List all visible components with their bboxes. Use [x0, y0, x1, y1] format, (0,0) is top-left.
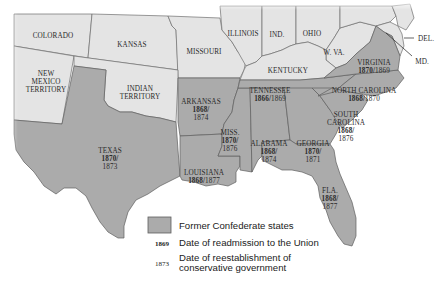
- years-south-carolina: 1868/: [338, 127, 356, 135]
- years-louisiana: 1868/1877: [188, 177, 220, 185]
- label-maryland: MD.: [415, 58, 429, 66]
- label-indian-territory-1: INDIAN: [127, 85, 154, 93]
- label-georgia: GEORGIA: [296, 140, 330, 148]
- label-indian-territory-2: TERRITORY: [120, 93, 161, 101]
- conservative-south-carolina: 1876: [339, 135, 354, 143]
- label-west-virginia: W. VA.: [323, 49, 345, 57]
- years-florida: 1868/: [322, 195, 340, 203]
- label-south-carolina-1: SOUTH: [334, 111, 358, 119]
- label-illinois: ILLINOIS: [227, 30, 258, 38]
- legend-conservative-label-2: conservative government: [179, 262, 287, 273]
- label-kansas: KANSAS: [117, 41, 146, 49]
- label-new-mexico-1: NEW: [38, 70, 55, 78]
- label-louisiana: LOUISIANA: [184, 169, 225, 177]
- years-virginia: 1870/1869: [358, 67, 390, 75]
- fade-top: [0, 0, 436, 10]
- label-south-carolina-2: CAROLINA: [327, 119, 366, 127]
- label-missouri: MISSOURI: [186, 48, 222, 56]
- conservative-arkansas: 1874: [194, 114, 209, 122]
- label-arkansas: ARKANSAS: [181, 98, 221, 106]
- legend-readmission-label: Date of readmission to the Union: [179, 237, 319, 248]
- label-colorado: COLORADO: [33, 32, 74, 40]
- years-texas: 1870/: [102, 155, 120, 163]
- label-delaware: DEL.: [418, 35, 434, 43]
- label-new-mexico-2: MEXICO: [32, 78, 61, 86]
- years-tennessee: 1866/1869: [254, 95, 286, 103]
- years-alabama: 1868/: [261, 148, 279, 156]
- label-texas: TEXAS: [98, 147, 122, 155]
- conservative-texas: 1873: [103, 163, 118, 171]
- fade-left: [0, 0, 18, 200]
- legend-readmission-sample: 1869: [155, 240, 170, 248]
- label-new-mexico-3: TERRITORY: [26, 86, 67, 94]
- legend-conservative-sample: 1873: [155, 260, 170, 268]
- conservative-florida: 1877: [323, 203, 338, 211]
- legend: Former Confederate states 1869 Date of r…: [148, 217, 319, 273]
- legend-swatch-confederate: [148, 217, 171, 233]
- label-mississippi: MISS.: [220, 129, 239, 137]
- label-virginia: VIRGINIA: [357, 59, 391, 67]
- reconstruction-map: COLORADO KANSAS MISSOURI ILLINOIS IND. O…: [0, 0, 436, 282]
- label-alabama: ALABAMA: [250, 140, 288, 148]
- label-north-carolina: NORTH CAROLINA: [332, 87, 397, 95]
- label-tennessee: TENNESSEE: [249, 87, 291, 95]
- conservative-alabama: 1874: [262, 156, 277, 164]
- label-ohio: OHIO: [303, 30, 321, 38]
- conservative-georgia: 1871: [306, 156, 321, 164]
- label-indiana: IND.: [270, 31, 285, 39]
- years-georgia: 1870/: [305, 148, 323, 156]
- label-kentucky: KENTUCKY: [268, 67, 309, 75]
- years-mississippi: 1870/: [222, 137, 240, 145]
- label-florida: FLA.: [322, 187, 338, 195]
- conservative-mississippi: 1876: [223, 145, 238, 153]
- years-north-carolina: 1868/1870: [348, 95, 380, 103]
- years-arkansas: 1868/: [193, 106, 211, 114]
- legend-swatch-label: Former Confederate states: [179, 220, 294, 231]
